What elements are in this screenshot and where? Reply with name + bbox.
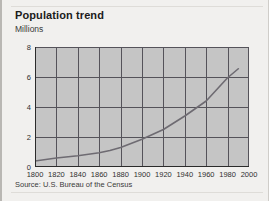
- page-title: Population trend: [15, 9, 104, 21]
- panel-bottom-divider: [11, 192, 263, 193]
- y-tick-label: 4: [9, 103, 31, 112]
- population-trend-figure-card: Population trend Millions 02468 18001820…: [0, 0, 269, 201]
- source-note: Source: U.S. Bureau of the Census: [15, 180, 132, 189]
- chart-plot-area: [35, 47, 249, 167]
- x-tick-label: 2000: [234, 170, 264, 179]
- y-tick-label: 6: [9, 73, 31, 82]
- line-chart-svg: [35, 47, 249, 167]
- y-tick-label: 8: [9, 43, 31, 52]
- population-line-series: [35, 69, 238, 161]
- panel-top-divider: [11, 6, 263, 7]
- y-tick-label: 2: [9, 133, 31, 142]
- y-axis-unit-label: Millions: [15, 24, 43, 34]
